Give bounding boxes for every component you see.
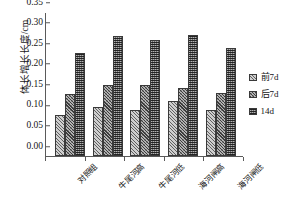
x-axis-label: 牛尾河低: [155, 160, 186, 191]
plot-area: 0.000.050.100.150.200.250.300.35: [45, 13, 243, 157]
y-axis-tick-label: 0.10: [26, 101, 46, 111]
y-axis-tick: 0.10: [26, 101, 46, 111]
bar-groups: [46, 13, 243, 156]
y-axis-tick-label: 0.00: [26, 142, 46, 152]
x-axis-tick-mark: [243, 157, 244, 161]
bar[interactable]: [188, 35, 198, 156]
legend-label: 后7d: [261, 90, 279, 99]
y-axis-tick-label: 0.15: [26, 80, 46, 90]
y-axis-tick: 0.35: [26, 0, 46, 7]
x-axis-label: 牛尾河高: [116, 160, 147, 191]
y-axis-tick-label: 0.25: [26, 39, 46, 49]
bar[interactable]: [140, 85, 150, 156]
bar-group: [51, 13, 89, 156]
y-axis-tick-label: 0.30: [26, 18, 46, 28]
bar-group: [127, 13, 165, 156]
chart-legend: 前7d后7d14d: [249, 73, 297, 116]
y-axis-tick: 0.30: [26, 18, 46, 28]
bar[interactable]: [55, 115, 65, 156]
legend-label: 前7d: [261, 73, 279, 82]
bar-group: [89, 13, 127, 156]
x-axis-labels: 对照组牛尾河高牛尾河低海河闸高海河闸低: [45, 160, 243, 206]
legend-label: 14d: [261, 107, 275, 116]
bar[interactable]: [75, 53, 85, 156]
bar[interactable]: [93, 107, 103, 156]
legend-swatch-icon: [249, 74, 257, 82]
y-axis-tick: 0.15: [26, 80, 46, 90]
legend-swatch-icon: [249, 108, 257, 116]
legend-item[interactable]: 14d: [249, 107, 297, 116]
bar[interactable]: [226, 48, 236, 156]
legend-item[interactable]: 前7d: [249, 73, 297, 82]
y-axis-tick: 0.05: [26, 121, 46, 131]
x-axis-label: 海河闸高: [195, 160, 226, 191]
bar[interactable]: [130, 110, 140, 156]
legend-swatch-icon: [249, 91, 257, 99]
bar[interactable]: [65, 94, 75, 156]
bar[interactable]: [113, 36, 123, 156]
bar[interactable]: [216, 93, 226, 156]
x-axis-label: 海河闸低: [235, 160, 266, 191]
bar-group: [202, 13, 240, 156]
bar[interactable]: [103, 85, 113, 156]
y-axis-tick-mark: [46, 2, 50, 3]
bar[interactable]: [150, 40, 160, 156]
y-axis-tick-label: 0.05: [26, 121, 46, 131]
legend-item[interactable]: 后7d: [249, 90, 297, 99]
y-axis-tick: 0.20: [26, 59, 46, 69]
y-axis-tick-label: 0.20: [26, 59, 46, 69]
y-axis-tick: 0.00: [26, 142, 46, 152]
bar[interactable]: [168, 101, 178, 156]
bar[interactable]: [178, 88, 188, 156]
bar-chart: 体长增长长度/cm 0.000.050.100.150.200.250.300.…: [0, 0, 297, 206]
x-axis-label: 对照组: [74, 160, 99, 185]
y-axis-tick-label: 0.35: [26, 0, 46, 7]
bar-group: [164, 13, 202, 156]
y-axis-tick: 0.25: [26, 39, 46, 49]
bar[interactable]: [206, 110, 216, 156]
